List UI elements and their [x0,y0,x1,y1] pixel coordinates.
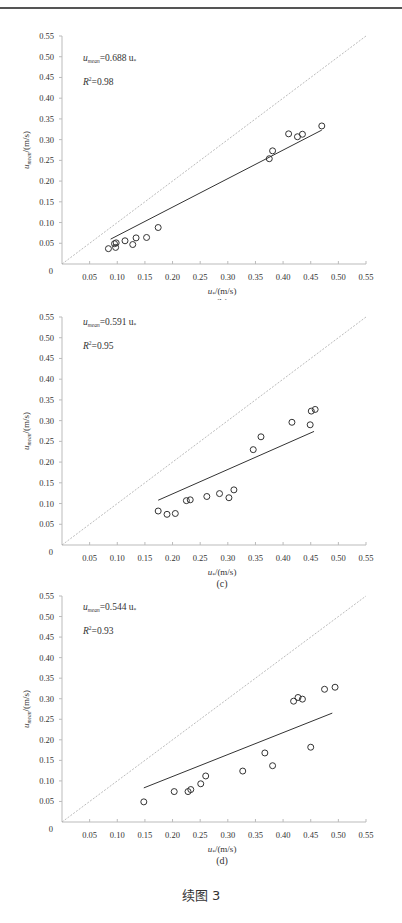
x-tick-label: 0.15 [137,830,152,840]
y-tick-label: 0.20 [39,735,54,745]
data-point [308,744,314,750]
figure-caption: 续图 3 [0,885,402,904]
x-tick-label: 0.50 [331,830,346,840]
x-tick-label: 0.55 [359,830,374,840]
data-point [240,768,246,774]
y-tick-label: 0.05 [39,796,54,806]
data-point [332,684,338,690]
chart-svg: 00.050.100.150.200.250.300.350.400.450.5… [0,0,402,923]
x-tick-label: 0.25 [193,830,208,840]
data-point [262,750,268,756]
y-tick-label: 0 [49,824,53,834]
x-tick-label: 0.30 [220,830,235,840]
x-tick-label: 0.45 [303,830,318,840]
panel-label: (d) [216,855,228,867]
data-point [171,789,177,795]
x-axis-label: u*/(m/s) [208,844,237,855]
x-tick-label: 0.40 [276,830,291,840]
x-tick-label: 0.35 [248,830,263,840]
y-tick-label: 0.10 [39,776,54,786]
x-tick-label: 0.20 [165,830,180,840]
y-tick-label: 0.30 [39,694,54,704]
chart-panel-d: 00.050.100.150.200.250.300.350.400.450.5… [0,0,402,923]
y-tick-label: 0.35 [39,673,54,683]
r-squared-label: R2=0.93 [82,625,114,636]
regression-fit-line [144,713,332,788]
data-point [203,773,209,779]
y-tick-label: 0.40 [39,653,54,663]
data-point [198,781,204,787]
data-point [270,763,276,769]
regression-equation: umean=0.544 u* [83,602,137,613]
y-axis-label: umean/(m/s) [21,690,32,728]
x-tick-label: 0.05 [82,830,97,840]
y-tick-label: 0.55 [39,591,54,601]
y-tick-label: 0.15 [39,755,54,765]
data-point [322,686,328,692]
y-tick-label: 0.50 [39,612,54,622]
x-tick-label: 0.10 [110,830,125,840]
y-tick-label: 0.25 [39,714,54,724]
y-tick-label: 0.45 [39,632,54,642]
data-point [141,799,147,805]
